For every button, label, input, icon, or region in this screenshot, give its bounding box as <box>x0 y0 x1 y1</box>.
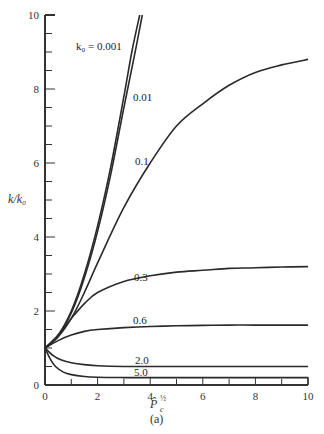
y-tick-label: 0 <box>34 379 40 391</box>
chart: 02468100246810 k₀ = 0.001 0.01 0.1 0.3 0… <box>0 0 324 434</box>
x-tick-label: 0 <box>42 390 48 402</box>
x-axis-title: P̂ c ½ <box>149 394 166 414</box>
curve-0.1 <box>45 59 308 348</box>
svg-text:P̂: P̂ <box>149 397 158 411</box>
curve-label-2.0: 2.0 <box>135 354 149 366</box>
curve-label-5.0: 5.0 <box>134 366 148 378</box>
curve-label-0.1: 0.1 <box>135 155 149 167</box>
x-tick-label: 2 <box>95 390 101 402</box>
x-tick-label: 8 <box>253 390 259 402</box>
figure-caption: (a) <box>150 412 163 426</box>
x-tick-label: 10 <box>303 390 315 402</box>
y-tick-label: 8 <box>34 83 40 95</box>
curve-label-0.01: 0.01 <box>133 91 152 103</box>
y-tick-label: 2 <box>34 305 40 317</box>
y-tick-label: 10 <box>28 9 40 21</box>
curve-0.6 <box>45 325 308 348</box>
curves <box>45 15 308 378</box>
curve-label-0.3: 0.3 <box>134 271 148 283</box>
svg-text:½: ½ <box>160 394 166 403</box>
curve-label-0.6: 0.6 <box>133 314 147 326</box>
y-tick-label: 6 <box>34 157 40 169</box>
curve-0.001 <box>45 15 140 348</box>
x-tick-label: 6 <box>200 390 206 402</box>
curve-2.0 <box>45 348 308 367</box>
curve-label-0.001: k₀ = 0.001 <box>76 40 122 52</box>
y-tick-label: 4 <box>34 231 40 243</box>
y-axis-title: k/k₀ <box>8 192 26 206</box>
curve-5.0 <box>45 348 308 378</box>
curve-0.01 <box>45 15 142 348</box>
